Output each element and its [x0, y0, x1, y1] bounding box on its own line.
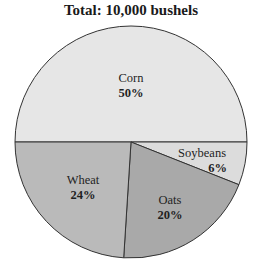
label-oats: Oats [159, 193, 182, 207]
label-soybeans: Soybeans [178, 146, 226, 160]
pct-soybeans: 6% [208, 161, 227, 175]
pct-wheat: 24% [71, 188, 96, 202]
pct-oats: 20% [158, 208, 183, 222]
label-corn: Corn [119, 71, 145, 85]
pct-corn: 50% [119, 86, 144, 100]
pie-chart: Corn 50% Soybeans 6% Oats 20% Wheat 24% [0, 0, 262, 278]
label-wheat: Wheat [67, 173, 100, 187]
